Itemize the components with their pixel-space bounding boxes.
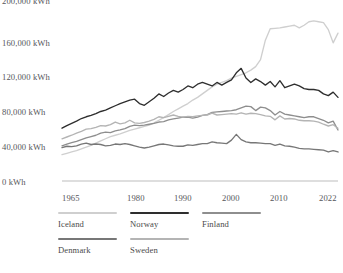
legend-item-norway[interactable]: Norway [130,212,202,229]
y-tick-200000: 200,000 kWh [2,0,50,6]
y-tick-160000: 160,000 kWh [2,38,50,48]
legend-label-denmark: Denmark [58,245,130,255]
y-tick-80000: 80,000 kWh [2,107,46,117]
plot-area [0,0,343,200]
legend-swatch-denmark [58,238,117,240]
legend-label-sweden: Sweden [130,245,202,255]
legend-item-iceland[interactable]: Iceland [58,212,130,229]
series-line-denmark [62,134,338,152]
y-tick-120000: 120,000 kWh [2,72,50,82]
legend-swatch-norway [130,212,189,214]
legend-item-denmark[interactable]: Denmark [58,238,130,255]
chart-svg [0,0,343,200]
y-tick-0: 0 kWh [2,177,26,187]
x-tick-2022: 2022 [319,193,337,203]
legend-row-1: Iceland Norway Finland [58,212,343,229]
legend-item-sweden[interactable]: Sweden [130,238,202,255]
legend-label-iceland: Iceland [58,219,130,229]
legend-label-norway: Norway [130,219,202,229]
legend: Iceland Norway Finland Denmark Sweden [58,212,343,264]
legend-label-finland: Finland [202,219,274,229]
legend-swatch-finland [202,212,261,214]
x-tick-1980: 1980 [127,193,145,203]
x-tick-1965: 1965 [62,193,80,203]
legend-item-finland[interactable]: Finland [202,212,274,229]
x-tick-2000: 2000 [222,193,240,203]
line-chart: 200,000 kWh 160,000 kWh 120,000 kWh 80,0… [0,0,343,273]
series-group [62,21,338,155]
legend-swatch-sweden [130,238,189,240]
y-tick-40000: 40,000 kWh [2,142,46,152]
legend-swatch-iceland [58,212,117,214]
legend-row-2: Denmark Sweden [58,238,343,255]
series-line-iceland [62,21,338,155]
x-tick-1990: 1990 [174,193,192,203]
x-tick-2010: 2010 [270,193,288,203]
